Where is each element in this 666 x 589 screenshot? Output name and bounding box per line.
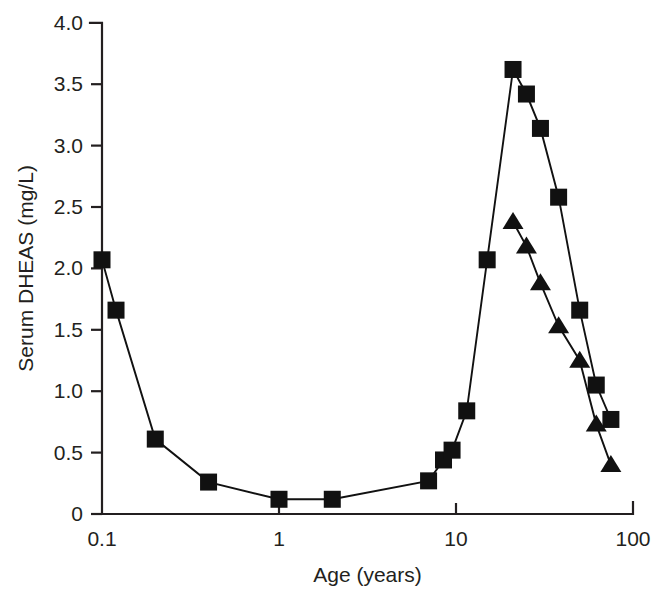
- data-point-square: [505, 61, 522, 78]
- y-tick-label: 1.5: [54, 318, 83, 341]
- data-point-square: [271, 491, 288, 508]
- y-tick-label: 1.0: [54, 379, 83, 402]
- data-point-square: [147, 431, 164, 448]
- x-tick-label: 0.1: [87, 527, 116, 550]
- data-point-square: [550, 189, 567, 206]
- y-tick-label: 3.0: [54, 134, 83, 157]
- data-point-square: [108, 302, 125, 319]
- data-point-square: [571, 302, 588, 319]
- series-triangles: [503, 212, 622, 472]
- y-axis-title: Serum DHEAS (mg/L): [14, 165, 37, 372]
- data-point-square: [532, 120, 549, 137]
- data-point-triangle: [569, 351, 590, 368]
- data-point-square: [324, 491, 341, 508]
- data-point-triangle: [548, 316, 569, 333]
- x-tick-label: 100: [615, 527, 650, 550]
- data-point-triangle: [516, 236, 537, 253]
- data-point-square: [444, 442, 461, 459]
- data-point-triangle: [530, 273, 551, 290]
- data-point-square: [602, 411, 619, 428]
- data-point-triangle: [503, 212, 524, 229]
- x-axis-title: Age (years): [313, 563, 422, 586]
- data-point-square: [479, 251, 496, 268]
- y-tick-label: 2.5: [54, 195, 83, 218]
- y-tick-label: 0.5: [54, 441, 83, 464]
- y-tick-label: 3.5: [54, 72, 83, 95]
- data-point-square: [200, 474, 217, 491]
- series-layer: [94, 61, 622, 508]
- data-point-triangle: [600, 455, 621, 472]
- data-point-square: [458, 402, 475, 419]
- data-point-square: [588, 377, 605, 394]
- x-axis-ticks: 0.1110100: [87, 503, 650, 550]
- dheas-vs-age-line-chart: 00.51.01.52.02.53.03.54.0 0.1110100 Seru…: [0, 0, 666, 589]
- y-tick-label: 0: [71, 502, 83, 525]
- x-axis-line: [102, 502, 633, 514]
- x-tick-label: 1: [273, 527, 285, 550]
- data-point-square: [94, 251, 111, 268]
- chart-container: 00.51.01.52.02.53.03.54.0 0.1110100 Seru…: [0, 0, 666, 589]
- y-tick-label: 4.0: [54, 11, 83, 34]
- x-tick-label: 10: [444, 527, 467, 550]
- y-tick-label: 2.0: [54, 256, 83, 279]
- data-point-square: [420, 472, 437, 489]
- data-point-square: [518, 86, 535, 103]
